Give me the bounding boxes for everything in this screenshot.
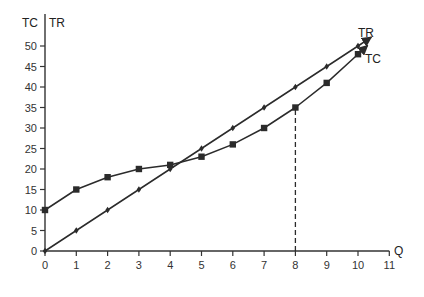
x-tick-label: 5 bbox=[198, 259, 204, 271]
series-group bbox=[42, 37, 372, 254]
square-marker bbox=[355, 51, 361, 57]
diamond-marker bbox=[324, 63, 328, 69]
y-tick-label: 5 bbox=[31, 225, 37, 237]
y-tick-label: 10 bbox=[25, 204, 37, 216]
x-axis-title: Q bbox=[394, 244, 403, 258]
y-axis-title-tc: TC bbox=[22, 16, 38, 30]
diamond-marker bbox=[105, 207, 109, 213]
x-tick-label: 4 bbox=[167, 259, 173, 271]
diamond-marker bbox=[262, 104, 266, 110]
diamond-marker bbox=[43, 248, 47, 254]
chart-canvas: 0123456789101105101520253035404550 TC TR… bbox=[0, 0, 424, 297]
square-marker bbox=[136, 166, 142, 172]
square-marker bbox=[230, 141, 236, 147]
series-line-tr bbox=[45, 37, 371, 251]
x-tick-label: 3 bbox=[136, 259, 142, 271]
y-tick-label: 25 bbox=[25, 143, 37, 155]
series-tc bbox=[42, 45, 368, 213]
square-marker bbox=[167, 162, 173, 168]
series-label-tr: TR bbox=[358, 26, 374, 40]
diamond-marker bbox=[137, 186, 141, 192]
x-tick-label: 11 bbox=[384, 259, 395, 271]
square-marker bbox=[104, 174, 110, 180]
y-tick-label: 20 bbox=[25, 163, 37, 175]
square-marker bbox=[324, 80, 330, 86]
y-tick-label: 30 bbox=[25, 122, 37, 134]
y-tick-label: 40 bbox=[25, 81, 37, 93]
y-tick-label: 15 bbox=[25, 184, 37, 196]
square-marker bbox=[198, 154, 204, 160]
y-tick-label: 35 bbox=[25, 102, 37, 114]
x-tick-label: 1 bbox=[73, 259, 79, 271]
square-marker bbox=[261, 125, 267, 131]
labels: TC TR Q TR TC bbox=[22, 16, 403, 258]
x-tick-label: 9 bbox=[324, 259, 330, 271]
x-tick-label: 2 bbox=[105, 259, 111, 271]
y-tick-label: 45 bbox=[25, 61, 37, 73]
y-tick-label: 50 bbox=[25, 40, 37, 52]
square-marker bbox=[73, 186, 79, 192]
series-line-tc bbox=[45, 45, 368, 210]
square-marker bbox=[292, 104, 298, 110]
x-tick-label: 6 bbox=[230, 259, 236, 271]
y-axis-title-tr: TR bbox=[49, 16, 65, 30]
diamond-marker bbox=[231, 125, 235, 131]
diamond-marker bbox=[356, 43, 360, 49]
x-tick-label: 10 bbox=[352, 259, 364, 271]
x-tick-label: 8 bbox=[292, 259, 298, 271]
x-tick-label: 0 bbox=[42, 259, 48, 271]
x-tick-label: 7 bbox=[261, 259, 267, 271]
square-marker bbox=[42, 207, 48, 213]
diamond-marker bbox=[199, 145, 203, 151]
diamond-marker bbox=[293, 84, 297, 90]
y-tick-label: 0 bbox=[31, 245, 37, 257]
series-label-tc: TC bbox=[365, 52, 381, 66]
diamond-marker bbox=[74, 227, 78, 233]
series-tr bbox=[43, 37, 372, 254]
